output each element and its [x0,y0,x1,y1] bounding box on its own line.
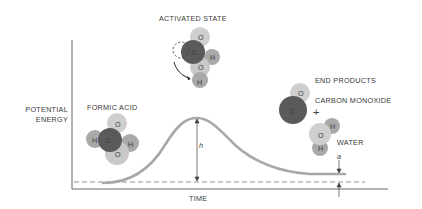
atom-oxygen: O [115,120,121,129]
x-axis-label: TIME [189,194,207,203]
atom-oxygen: O [198,33,204,42]
atom-carbon: C [106,136,112,145]
atom-hydrogen: H [210,53,216,62]
atom-hydrogen: H [318,144,324,153]
atom-carbon: C [192,48,198,57]
y-axis-label-line2: ENERGY [20,115,68,124]
activation-height-arrow [195,119,199,181]
atom-hydrogen: H [128,140,134,149]
atom-oxygen: O [198,63,204,72]
energy-difference-arrow [337,160,341,197]
atom-oxygen: O [298,89,304,98]
label-h: h [199,141,203,150]
reaction-curve [103,118,345,183]
y-axis-label-line1: POTENTIAL [20,105,68,114]
label-end-products: END PRODUCTS [315,76,376,85]
atom-hydrogen: H [92,136,98,145]
atom-carbon: C [290,107,296,116]
carbon-monoxide-molecule [279,83,310,124]
label-activated-state: ACTIVATED STATE [159,14,227,23]
atom-hydrogen: H [197,78,203,87]
label-plus: + [313,106,320,118]
label-formic-acid: FORMIC ACID [87,103,137,112]
label-carbon-monoxide: CARBON MONOXIDE [315,96,391,105]
label-a: a [337,152,341,161]
atom-hydrogen: H [330,122,336,131]
atom-oxygen: O [318,131,324,140]
label-water: WATER [337,138,364,147]
atom-oxygen: O [115,150,121,159]
